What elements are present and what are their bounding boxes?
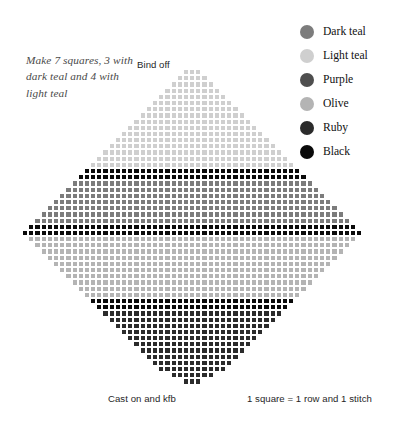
chart-row xyxy=(22,378,362,384)
legend-item-label: Light teal xyxy=(323,49,368,63)
chart-page: Make 7 squares, 3 with dark teal and 4 w… xyxy=(0,0,398,425)
legend-item-label: Dark teal xyxy=(323,25,366,39)
legend-item: Light teal xyxy=(300,44,396,68)
knitting-chart-grid xyxy=(22,69,362,385)
chart-cell-empty xyxy=(356,378,362,384)
legend-item: Dark teal xyxy=(300,20,396,44)
cast-on-label: Cast on and kfb xyxy=(108,393,176,404)
legend-swatch-icon xyxy=(300,49,314,63)
gauge-label: 1 square = 1 row and 1 stitch xyxy=(247,393,372,404)
legend-swatch-icon xyxy=(300,25,314,39)
